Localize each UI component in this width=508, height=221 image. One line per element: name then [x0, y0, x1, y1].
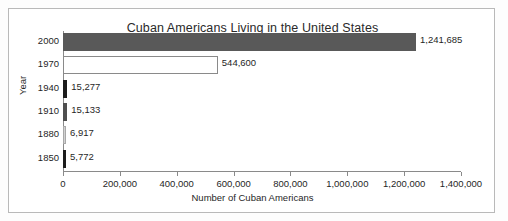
bar-value-label: 15,277: [71, 81, 100, 92]
x-axis-line: [63, 171, 461, 172]
y-axis-tick-label: 1850: [38, 152, 59, 163]
chart-bar: [63, 150, 66, 168]
bar-value-label: 544,600: [222, 57, 256, 68]
x-axis-tick-label: 200,000: [103, 178, 137, 189]
bar-value-label: 1,241,685: [420, 34, 462, 45]
x-axis-tick-label: 1,200,000: [383, 178, 425, 189]
x-axis-tick: [63, 172, 64, 176]
chart-bar-row: 194015,277: [63, 78, 461, 101]
x-axis-tick-label: 1,400,000: [440, 178, 482, 189]
y-axis-tick-label: 2000: [38, 35, 59, 46]
chart-bar: [63, 80, 67, 98]
x-axis-tick-label: 0: [60, 178, 65, 189]
y-axis-tick-label: 1970: [38, 58, 59, 69]
bar-value-label: 5,772: [70, 151, 94, 162]
bar-value-label: 15,133: [71, 104, 100, 115]
x-axis-tick: [461, 172, 462, 176]
chart-bar: [63, 103, 67, 121]
chart-bar-row: 191015,133: [63, 101, 461, 124]
x-axis-title: Number of Cuban Americans: [9, 192, 496, 203]
chart-bar-row: 18806,917: [63, 124, 461, 147]
chart-bar-row: 18505,772: [63, 148, 461, 171]
chart-bar-row: 20001,241,685: [63, 31, 461, 54]
y-axis-tick-label: 1880: [38, 128, 59, 139]
x-axis-tick: [404, 172, 405, 176]
x-axis-tick: [177, 172, 178, 176]
y-axis-title: Year: [17, 76, 28, 95]
x-axis-tick-label: 800,000: [273, 178, 307, 189]
x-axis-tick: [234, 172, 235, 176]
x-axis-tick-label: 600,000: [216, 178, 250, 189]
chart-frame: Cuban Americans Living in the United Sta…: [8, 8, 495, 213]
chart-bar: [63, 33, 416, 51]
bar-value-label: 6,917: [70, 127, 94, 138]
chart-bar-row: 1970544,600: [63, 54, 461, 77]
chart-bar: [63, 126, 66, 144]
x-axis-tick-label: 1,000,000: [326, 178, 368, 189]
x-axis-tick-label: 400,000: [160, 178, 194, 189]
chart-figure: Cuban Americans Living in the United Sta…: [0, 0, 508, 221]
plot-area: 20001,241,6851970544,600194015,277191015…: [63, 31, 461, 171]
chart-bar: [63, 56, 218, 74]
y-axis-tick-label: 1940: [38, 82, 59, 93]
x-axis-tick: [120, 172, 121, 176]
x-axis-tick: [290, 172, 291, 176]
y-axis-tick-label: 1910: [38, 105, 59, 116]
x-axis-tick: [347, 172, 348, 176]
